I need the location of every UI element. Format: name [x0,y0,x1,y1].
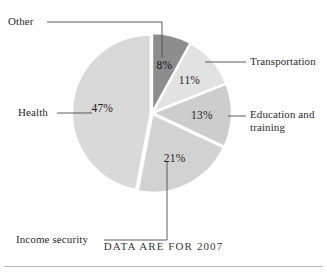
bottom-divider [4,266,323,267]
slice-value-education-and-training: 13% [191,109,213,121]
slice-value-health: 47% [91,102,113,114]
callout-label-health: Health [18,106,48,119]
slice-value-other: 8% [157,59,173,71]
callout-label-transportation: Transportation [250,55,316,68]
chart-caption: DATA ARE FOR 2007 [0,240,327,252]
slice-value-transportation: 11% [179,74,200,86]
slice-value-income-security: 21% [164,152,186,164]
callout-label-education-and-training: Education and training [250,108,324,134]
callout-label-other: Other [8,15,34,28]
pie-chart-figure: 8%11%13%21%47% Other Transportation Educ… [0,0,327,275]
